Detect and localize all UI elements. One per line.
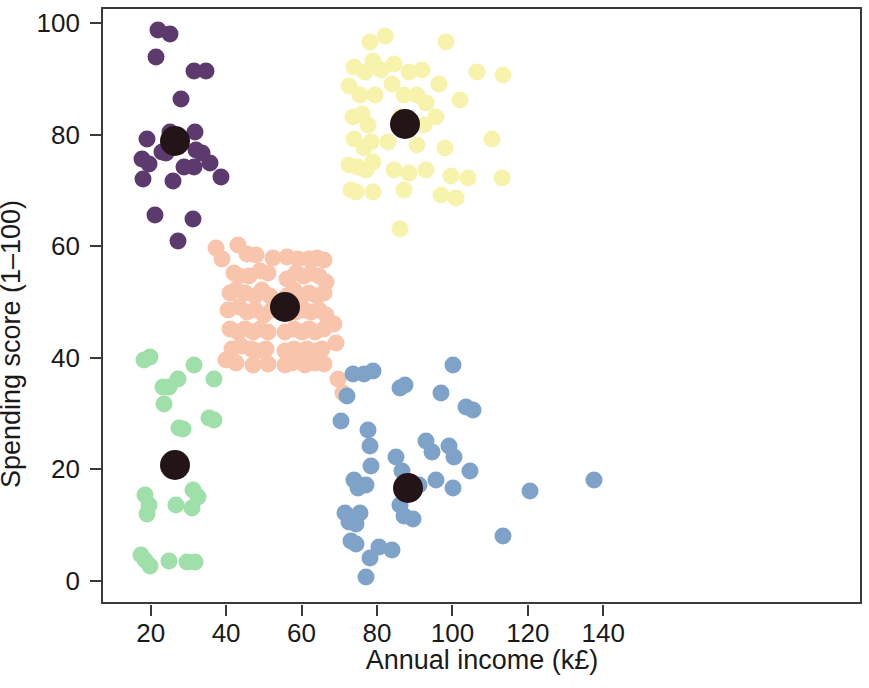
data-point: [493, 170, 510, 187]
y-axis-tick-mark: [90, 468, 101, 470]
data-point: [169, 371, 186, 388]
x-axis-tick-label: 140: [568, 620, 638, 646]
data-point: [212, 168, 229, 185]
data-point: [461, 463, 478, 480]
data-point: [327, 335, 344, 352]
x-axis-tick-label: 80: [342, 620, 412, 646]
y-axis-tick-label: 60: [22, 233, 80, 259]
cluster-centroid: [160, 450, 190, 480]
data-point: [139, 505, 156, 522]
x-axis-tick-mark: [225, 605, 227, 616]
data-point: [165, 172, 182, 189]
data-point: [365, 153, 382, 170]
y-axis-tick-mark: [90, 134, 101, 136]
data-point: [376, 28, 393, 45]
y-axis-tick-mark: [90, 580, 101, 582]
data-point: [185, 211, 202, 228]
data-point: [197, 62, 214, 79]
data-point: [401, 164, 418, 181]
data-point: [316, 356, 333, 373]
data-point: [361, 549, 378, 566]
y-axis-tick-mark: [90, 357, 101, 359]
data-point: [427, 109, 444, 126]
data-point: [397, 376, 414, 393]
x-axis-title-text: Annual income (k£): [366, 645, 599, 675]
y-axis-tick-mark: [90, 22, 101, 24]
x-axis-tick-mark: [451, 605, 453, 616]
data-point: [444, 480, 461, 497]
data-point: [168, 496, 185, 513]
data-point: [134, 171, 151, 188]
y-axis-tick-label: 80: [22, 122, 80, 148]
x-axis-tick-mark: [602, 605, 604, 616]
data-point: [363, 134, 380, 151]
data-point: [380, 134, 397, 151]
data-point: [186, 357, 203, 374]
x-axis-tick-mark: [527, 605, 529, 616]
data-point: [259, 265, 276, 282]
cluster-centroid: [393, 473, 423, 503]
x-axis-tick-label: 60: [267, 620, 337, 646]
x-axis-tick-label: 40: [191, 620, 261, 646]
data-point: [442, 167, 459, 184]
data-point: [160, 553, 177, 570]
data-point: [186, 159, 203, 176]
data-point: [452, 92, 469, 109]
plot-area: [101, 7, 862, 604]
cluster-centroid: [270, 292, 300, 322]
data-point: [365, 362, 382, 379]
data-point: [162, 26, 179, 43]
x-axis-title: Annual income (k£): [101, 645, 863, 676]
data-point: [444, 357, 461, 374]
data-point: [148, 49, 165, 66]
data-point: [139, 131, 156, 148]
data-point: [495, 67, 512, 84]
data-point: [257, 340, 274, 357]
data-point: [469, 64, 486, 81]
data-point: [404, 510, 421, 527]
data-point: [484, 131, 501, 148]
data-point: [365, 184, 382, 201]
data-point: [359, 421, 376, 438]
data-point: [156, 396, 173, 413]
x-axis-tick-label: 120: [493, 620, 563, 646]
data-point: [414, 61, 431, 78]
data-point: [448, 189, 465, 206]
data-point: [325, 315, 342, 332]
data-point: [459, 170, 476, 187]
data-point: [227, 354, 244, 371]
data-point: [172, 90, 189, 107]
data-point: [205, 371, 222, 388]
data-point: [427, 471, 444, 488]
data-point: [408, 136, 425, 153]
data-point: [391, 220, 408, 237]
x-axis-tick-label: 100: [417, 620, 487, 646]
data-point: [431, 75, 448, 92]
data-point: [363, 457, 380, 474]
data-point: [333, 413, 350, 430]
data-point: [357, 477, 374, 494]
x-axis-tick-mark: [301, 605, 303, 616]
data-point: [316, 252, 333, 269]
data-point: [316, 284, 333, 301]
data-point: [348, 184, 365, 201]
data-point: [438, 33, 455, 50]
data-point: [214, 251, 231, 268]
data-point: [259, 323, 276, 340]
x-axis-tick-label: 20: [116, 620, 186, 646]
data-point: [361, 438, 378, 455]
data-point: [418, 162, 435, 179]
data-point: [169, 232, 186, 249]
x-axis-tick-mark: [376, 605, 378, 616]
data-point: [338, 388, 355, 405]
cluster-centroid: [390, 109, 420, 139]
data-point: [357, 569, 374, 586]
data-point: [521, 482, 538, 499]
data-point: [384, 541, 401, 558]
data-point: [146, 206, 163, 223]
data-point: [495, 527, 512, 544]
data-point: [186, 553, 203, 570]
data-point: [141, 558, 158, 575]
data-point: [174, 420, 191, 437]
y-axis-tick-label: 100: [22, 10, 80, 36]
